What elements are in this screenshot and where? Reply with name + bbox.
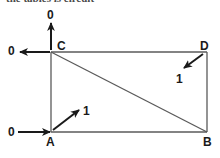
signal-label-input-at-D: 1 (176, 73, 183, 85)
arrow-input-at-D (184, 54, 203, 68)
circuit-diagram-svg (0, 0, 220, 158)
rectangle-edges (51, 52, 207, 132)
edge-diagonal-CB (51, 52, 207, 132)
node-label-A: A (46, 136, 55, 148)
node-label-D: D (200, 40, 209, 52)
node-label-B: B (203, 136, 212, 148)
arrow-diagonal-at-A (53, 110, 79, 130)
signal-label-output-top-at-C: 0 (47, 9, 54, 21)
node-label-C: C (57, 40, 66, 52)
figure-canvas: the tables is circuit A B C D 0 1 0 0 1 (0, 0, 220, 158)
signal-label-output-left-at-C: 0 (8, 45, 15, 57)
signal-label-input-bottom-left: 0 (8, 126, 15, 138)
signal-label-diagonal-at-A: 1 (83, 105, 90, 117)
